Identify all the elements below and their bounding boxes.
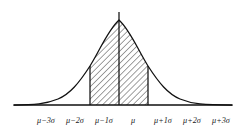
axis-tick-label-mu-minus-3-sigma: μ−3σ <box>36 116 56 125</box>
axis-tick-label-mu-plus-2-sigma: μ+2σ <box>182 116 202 125</box>
axis-tick-label-mu: μ <box>130 116 135 125</box>
axis-tick-label-mu-plus-1-sigma: μ+1σ <box>153 116 173 125</box>
distribution-plot: μ−3σ μ−2σ μ−1σ μ μ+1σ μ+2σ μ+3σ <box>0 0 245 132</box>
axis-tick-label-mu-plus-3-sigma: μ+3σ <box>211 116 231 125</box>
normal-distribution-figure: μ−3σ μ−2σ μ−1σ μ μ+1σ μ+2σ μ+3σ <box>0 0 245 132</box>
axis-tick-label-mu-minus-1-sigma: μ−1σ <box>94 116 114 125</box>
axis-tick-label-mu-minus-2-sigma: μ−2σ <box>65 116 85 125</box>
